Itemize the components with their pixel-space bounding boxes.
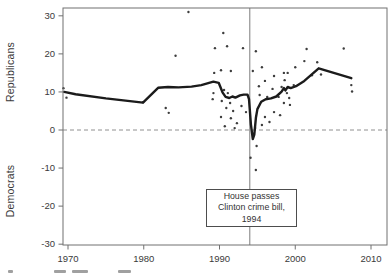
y-tick-label: 20 bbox=[44, 48, 55, 59]
data-point bbox=[224, 125, 226, 127]
data-point bbox=[350, 84, 352, 86]
data-point bbox=[213, 72, 215, 74]
data-point bbox=[211, 98, 213, 100]
data-point bbox=[220, 69, 222, 71]
data-point bbox=[261, 66, 263, 68]
data-point bbox=[255, 169, 257, 171]
data-point bbox=[233, 127, 235, 129]
data-point bbox=[320, 73, 322, 75]
caption-mark bbox=[54, 270, 66, 273]
y-axis-label-democrats: Democrats bbox=[3, 131, 17, 251]
data-point bbox=[168, 112, 170, 114]
data-point bbox=[279, 114, 281, 116]
data-point bbox=[249, 157, 251, 159]
data-point bbox=[252, 70, 254, 72]
data-point bbox=[255, 145, 257, 147]
annotation-line-1: House passes bbox=[207, 191, 296, 202]
data-point bbox=[289, 104, 291, 106]
data-point bbox=[283, 102, 285, 104]
data-point bbox=[255, 50, 257, 52]
data-point bbox=[187, 11, 189, 13]
data-point bbox=[273, 111, 275, 113]
data-point bbox=[343, 47, 345, 49]
data-point bbox=[273, 75, 275, 77]
data-point bbox=[225, 107, 227, 109]
data-point bbox=[286, 72, 288, 74]
y-tick-label: -30 bbox=[41, 238, 55, 249]
data-point bbox=[214, 47, 216, 49]
data-point bbox=[268, 121, 270, 123]
data-point bbox=[65, 96, 67, 98]
annotation-line-2: Clinton crime bill, bbox=[207, 202, 296, 213]
data-point bbox=[283, 72, 285, 74]
y-tick-label: 10 bbox=[44, 86, 55, 97]
data-point bbox=[232, 110, 234, 112]
y-tick-label: -20 bbox=[41, 200, 55, 211]
data-point bbox=[288, 97, 290, 99]
data-point bbox=[212, 92, 214, 94]
x-tick-label: 1970 bbox=[57, 253, 78, 264]
data-point bbox=[240, 105, 242, 107]
data-point bbox=[261, 124, 263, 126]
annotation-box: House passes Clinton crime bill, 1994 bbox=[206, 189, 297, 227]
data-point bbox=[271, 88, 273, 90]
y-tick-label: -10 bbox=[41, 162, 55, 173]
data-point bbox=[316, 61, 318, 63]
data-point bbox=[226, 45, 228, 47]
data-point bbox=[174, 55, 176, 57]
y-tick-label: 30 bbox=[44, 10, 55, 21]
data-point bbox=[222, 32, 224, 34]
data-point bbox=[283, 79, 285, 81]
y-tick-label: 0 bbox=[50, 124, 55, 135]
x-tick-label: 1990 bbox=[209, 253, 230, 264]
data-point bbox=[227, 92, 229, 94]
data-point bbox=[258, 94, 260, 96]
trend-line bbox=[64, 68, 351, 139]
data-point bbox=[230, 70, 232, 72]
data-point bbox=[245, 111, 247, 113]
x-tick-label: 2000 bbox=[285, 253, 306, 264]
data-point bbox=[221, 100, 223, 102]
data-point bbox=[242, 47, 244, 49]
data-point bbox=[258, 85, 260, 87]
crime-opinion-chart: 197019801990200020103020100-10-20-30 Rep… bbox=[0, 0, 392, 275]
data-point bbox=[264, 116, 266, 118]
caption-mark bbox=[72, 270, 88, 273]
data-point bbox=[229, 102, 231, 104]
data-point bbox=[236, 122, 238, 124]
data-point bbox=[165, 107, 167, 109]
data-point bbox=[351, 90, 353, 92]
data-point bbox=[264, 80, 266, 82]
annotation-line-3: 1994 bbox=[207, 214, 296, 225]
data-point bbox=[294, 66, 296, 68]
plot-area: 197019801990200020103020100-10-20-30 bbox=[0, 0, 392, 275]
data-point bbox=[220, 116, 222, 118]
x-tick-label: 1980 bbox=[133, 253, 154, 264]
data-point bbox=[230, 117, 232, 119]
x-tick-label: 2010 bbox=[360, 253, 381, 264]
y-axis-label-republicans: Republicans bbox=[3, 12, 17, 132]
data-point bbox=[286, 92, 288, 94]
caption-mark bbox=[118, 270, 131, 273]
data-point bbox=[303, 60, 305, 62]
caption-mark bbox=[8, 270, 13, 273]
data-point bbox=[280, 86, 282, 88]
data-point bbox=[305, 48, 307, 50]
cropped-caption-fragment bbox=[0, 270, 392, 275]
